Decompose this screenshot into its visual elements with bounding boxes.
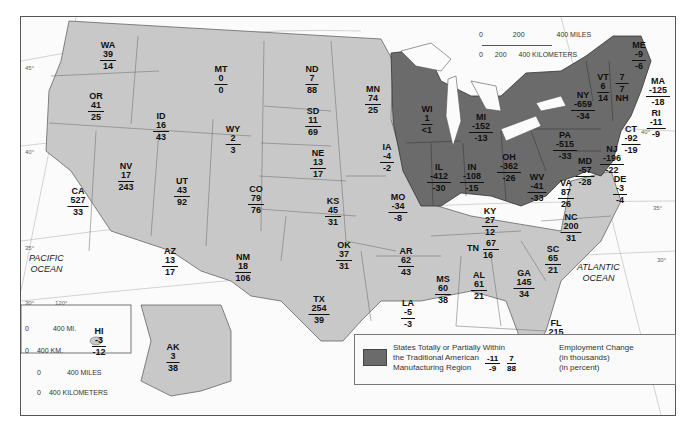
state-label-mt: MT00 [215, 65, 228, 95]
state-label-ca: CA52733 [67, 187, 88, 217]
alaska-shape [141, 305, 231, 396]
state-label-ia: IA-4-2 [380, 143, 394, 173]
hawaii-scale-km: 0400 KM. [25, 347, 63, 354]
alaska-scale-km: 0400 KILOMETERS [37, 389, 108, 396]
lat-label: 40° [25, 149, 34, 155]
state-label-sc: SC6521 [545, 245, 561, 275]
state-label-nj: NJ-196-22 [600, 145, 624, 175]
state-label-nd: ND788 [306, 65, 319, 95]
state-label-tn: TN6716 [483, 239, 499, 260]
state-label-oh: OH-362-26 [497, 153, 521, 183]
state-label-sd: SD1169 [305, 107, 321, 137]
state-label-ms: MS6038 [435, 275, 451, 305]
state-label-ny: NY-659-34 [571, 91, 595, 121]
state-label-wy: WY23 [226, 125, 241, 155]
state-label-me: ME-9-6 [632, 41, 646, 71]
state-label-co: CO7976 [248, 185, 264, 215]
state-label-va: VA8726 [558, 179, 574, 209]
state-label-ma: MA-125-18 [646, 77, 670, 107]
state-label-nc: NC20031 [560, 213, 581, 243]
state-label-vt: VT614 [597, 73, 609, 103]
state-label-mn: MN7425 [365, 85, 381, 115]
state-label-ri: RI-11-9 [647, 109, 666, 139]
state-label-ok: OK3731 [336, 241, 352, 271]
pacific-ocean-label: PACIFICOCEAN [29, 253, 64, 275]
atlantic-ocean-label: ATLANTICOCEAN [577, 262, 620, 284]
scale-km: 0 200 400 KILOMETERS [479, 51, 577, 58]
lat-label: 35° [25, 245, 34, 251]
state-label-al: AL6121 [471, 271, 487, 301]
legend-units: Employment Change (in thousands) (in per… [559, 343, 634, 373]
state-label-nh: 77NH [616, 73, 629, 103]
state-label-mi: MI-152-13 [469, 113, 493, 143]
manufacturing-region-swatch [363, 349, 387, 366]
state-label-pa: PA-515-33 [553, 131, 577, 161]
state-label-in: IN-108-15 [460, 163, 484, 193]
state-label-md: MD-57-28 [575, 157, 594, 187]
map-legend: States Totally or Partially Within the T… [354, 334, 676, 385]
state-label-ga: GA14534 [513, 269, 534, 299]
state-label-wv: WV-41-33 [527, 173, 546, 203]
scale-miles: 0 200 400 MILES [479, 31, 591, 38]
state-label-wa: WA3914 [100, 41, 116, 71]
state-label-nm: NM18106 [235, 253, 251, 283]
state-label-wi: WI1<1 [421, 105, 432, 135]
state-label-il: IL-412-30 [427, 163, 451, 193]
lat-label: 35° [653, 205, 662, 211]
legend-example-positive: 788 [507, 354, 516, 373]
state-label-id: ID1643 [153, 112, 169, 142]
state-label-de: DE-3-4 [613, 175, 627, 205]
legend-example-negative: -11-9 [485, 354, 500, 373]
state-label-ky: KY2712 [482, 207, 498, 237]
state-label-ks: KS4531 [325, 197, 341, 227]
lon-label: 120° [55, 300, 67, 306]
lat-label: 45° [25, 65, 34, 71]
state-label-ak: AK338 [167, 343, 180, 373]
state-label-la: LA-5-3 [401, 299, 415, 329]
scale-bar-line [482, 45, 552, 46]
lat-label: 30° [25, 300, 34, 306]
state-label-az: AZ1317 [162, 247, 178, 277]
state-label-mo: MO-34-8 [388, 193, 407, 223]
state-label-tx: TX25439 [308, 295, 329, 325]
state-label-ct: CT-92-19 [621, 125, 640, 155]
state-label-ut: UT4392 [174, 177, 190, 207]
lat-label: 30° [657, 257, 666, 263]
state-label-ne: NE1317 [310, 149, 326, 179]
state-label-hi: HI-3-12 [92, 327, 106, 357]
state-label-ar: AR6243 [398, 247, 414, 277]
hawaii-scale-miles: 0400 MI. [25, 325, 76, 332]
alaska-scale-miles: 0400 MILES [37, 369, 102, 376]
state-label-or: OR4125 [88, 92, 104, 122]
state-label-nv: NV17243 [118, 162, 134, 192]
